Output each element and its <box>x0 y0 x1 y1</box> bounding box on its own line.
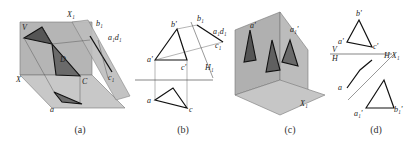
label-a1d1: a₁d₁ <box>108 33 122 42</box>
label-b-prime: b' <box>356 9 362 18</box>
label-c-prime: c' <box>181 63 187 72</box>
pictorial-diagram-a: X₁ V X b₁ a₁d₁ D C c₁ a <box>0 0 135 120</box>
caption-d: (d) <box>370 124 382 135</box>
label-X1: H X₁ <box>383 51 400 60</box>
caption-b: (b) <box>177 124 189 135</box>
label-c1: c₁ <box>108 73 115 82</box>
caption-a: (a) <box>74 124 85 135</box>
label-H: H <box>331 54 339 63</box>
caption-c: (c) <box>284 124 295 135</box>
label-a-prime: a' <box>250 21 256 30</box>
label-a-prime: a' <box>338 37 344 46</box>
orthographic-diagram-d: b' a' c' V H H X₁ a a₁' b₁' <box>330 0 410 120</box>
label-b1: b₁ <box>96 19 103 28</box>
label-a: a <box>338 83 342 92</box>
label-a1-prime: a₁' <box>290 25 299 34</box>
label-a1d1: a₁d₁ <box>213 27 227 36</box>
label-a1-prime: a₁' <box>354 109 363 118</box>
pictorial-diagram-c: a' a₁' X₁ <box>230 0 330 120</box>
label-C: C <box>82 77 88 86</box>
label-H1: H₁ <box>204 63 214 72</box>
orthographic-diagram-b: b' b₁ a₁d₁ c₁ a' c' H₁ a c <box>135 0 230 120</box>
label-a: a <box>147 96 151 105</box>
label-c: c <box>189 105 193 114</box>
label-V: V <box>332 45 338 54</box>
label-b1-prime: b₁' <box>394 105 403 114</box>
panel-c: a' a₁' X₁ (c) <box>230 0 330 148</box>
label-b1: b₁ <box>197 14 204 23</box>
label-c-prime: c' <box>373 42 379 51</box>
label-X1: X₁ <box>66 10 75 19</box>
panel-d: b' a' c' V H H X₁ a a₁' b₁' (d) <box>330 0 410 148</box>
label-X1: X₁ <box>299 99 308 108</box>
label-D: D <box>59 55 66 64</box>
label-a: a <box>50 105 54 114</box>
label-b-prime: b' <box>171 20 177 29</box>
label-c1: c₁ <box>215 41 222 50</box>
panel-b: b' b₁ a₁d₁ c₁ a' c' H₁ a c (b) <box>135 0 230 148</box>
panel-a: X₁ V X b₁ a₁d₁ D C c₁ a (a) <box>0 0 135 148</box>
label-a-prime: a' <box>147 55 153 64</box>
